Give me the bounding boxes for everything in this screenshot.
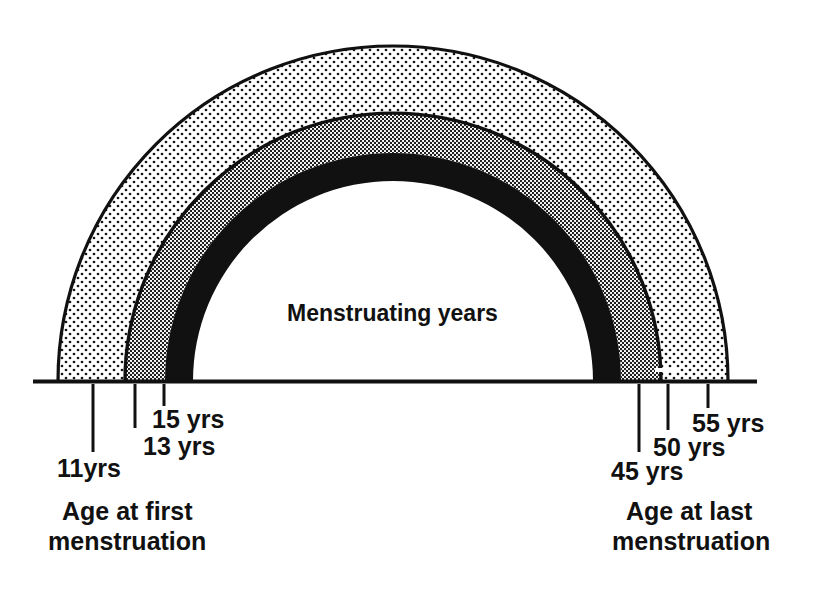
center-label-menstruating-years: Menstruating years bbox=[287, 300, 498, 327]
right-caption-line-2: menstruation bbox=[612, 526, 770, 556]
right-caption-line-1: Age at last bbox=[626, 496, 752, 526]
left-caption-line-1: Age at first bbox=[62, 496, 193, 526]
left-caption-line-2: menstruation bbox=[48, 526, 206, 556]
age-label-45yrs: 45 yrs bbox=[611, 458, 683, 485]
age-label-13yrs: 13 yrs bbox=[143, 433, 215, 460]
age-label-11yrs: 11yrs bbox=[57, 455, 121, 482]
right-foot-white-gap bbox=[655, 368, 677, 372]
arch-diagram-figure: Menstruating years 15 yrs 13 yrs 11yrs 5… bbox=[0, 0, 814, 590]
age-label-15yrs: 15 yrs bbox=[152, 406, 224, 433]
